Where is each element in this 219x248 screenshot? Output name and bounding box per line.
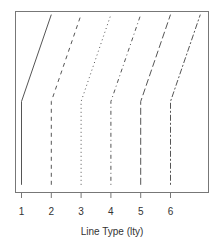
- series-line-1: [22, 15, 52, 185]
- series-layer: [22, 15, 201, 185]
- plot-box: [16, 12, 209, 193]
- series-line-2: [51, 15, 81, 185]
- x-tick-label: 5: [138, 206, 144, 217]
- x-tick-label: 4: [108, 206, 114, 217]
- x-tick-label: 1: [19, 206, 25, 217]
- x-axis-title: Line Type (lty): [81, 226, 144, 237]
- series-line-4: [111, 15, 141, 185]
- x-tick-label: 2: [49, 206, 55, 217]
- series-line-3: [81, 15, 111, 185]
- series-line-6: [171, 15, 201, 185]
- x-axis: 123456: [19, 193, 174, 217]
- x-tick-label: 3: [78, 206, 84, 217]
- series-line-5: [141, 15, 171, 185]
- line-type-chart: 123456 Line Type (lty): [0, 0, 219, 248]
- x-tick-label: 6: [168, 206, 174, 217]
